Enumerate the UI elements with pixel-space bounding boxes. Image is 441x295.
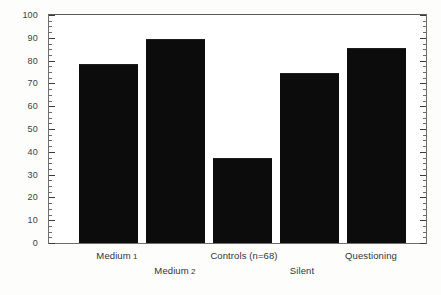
y-axis-tick-label: 20 — [28, 192, 38, 202]
x-axis-label-text: Medium — [96, 250, 130, 261]
y-axis-tick-label: 50 — [28, 124, 38, 134]
bar — [347, 48, 406, 243]
y-axis-label-group: 1009080706050403020100 — [0, 14, 44, 244]
bar — [79, 64, 138, 243]
x-axis-tick-label: Medium 1 — [96, 250, 137, 261]
bar — [213, 158, 272, 243]
x-axis-tick-label: Silent — [290, 265, 314, 276]
bar — [146, 39, 205, 243]
y-axis-major-tick — [49, 243, 55, 244]
x-axis-tick-label: Questioning — [345, 250, 397, 261]
y-axis-tick-label: 100 — [22, 10, 38, 20]
y-axis-tick-label: 40 — [28, 147, 38, 157]
x-axis-label-group: Medium 1Medium 2Controls (n=68)SilentQue… — [0, 247, 441, 293]
x-axis-tick-label: Medium 2 — [154, 265, 195, 276]
y-axis-tick-label: 10 — [28, 215, 38, 225]
y-axis-tick-label: 30 — [28, 170, 38, 180]
bar-series — [49, 15, 426, 243]
x-axis-label-text: Medium — [154, 265, 188, 276]
bar-chart: 1009080706050403020100 Medium 1Medium 2C… — [0, 0, 441, 295]
x-axis-tick-label: Controls (n=68) — [210, 250, 277, 261]
y-axis-tick-label: 70 — [28, 78, 38, 88]
y-axis-tick-label: 60 — [28, 101, 38, 111]
y-axis-major-tick — [420, 243, 426, 244]
y-axis-tick-label: 90 — [28, 33, 38, 43]
x-axis-label-numeral: 2 — [189, 267, 196, 276]
x-axis-label-numeral: 1 — [131, 252, 138, 261]
bar — [280, 73, 339, 243]
y-axis-tick-label: 80 — [28, 56, 38, 66]
